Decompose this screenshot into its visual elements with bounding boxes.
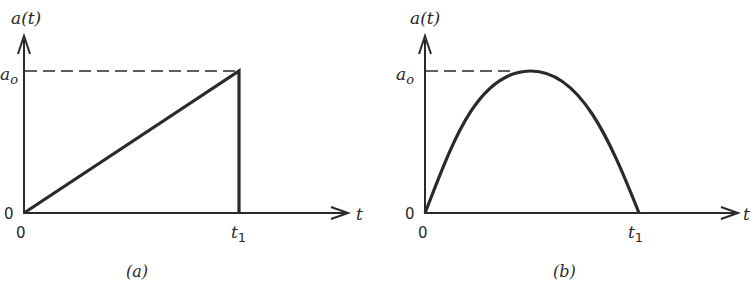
figure-a: a(t) ao 0 0 t1 t (a): [0, 8, 363, 281]
arch-curve: [425, 71, 639, 213]
origin-x-label: 0: [418, 224, 428, 242]
origin-y-label: 0: [405, 205, 415, 223]
diagram-canvas: a(t) ao 0 0 t1 t (a) a(t) ao 0 0 t1 t (b…: [0, 0, 752, 296]
y-axis-label: a(t): [410, 8, 440, 28]
x-axis-label: t: [743, 204, 750, 224]
y-tick-a0: ao: [0, 64, 18, 87]
origin-x-label: 0: [16, 224, 26, 242]
caption-b: (b): [553, 262, 576, 281]
y-tick-a0: ao: [396, 64, 414, 87]
y-axis-label: a(t): [11, 8, 41, 28]
figure-b: a(t) ao 0 0 t1 t (b): [396, 8, 750, 281]
x-axis-label: t: [356, 204, 363, 224]
x-tick-t1: t1: [231, 222, 246, 245]
ramp-curve: [24, 71, 239, 213]
caption-a: (a): [126, 262, 148, 281]
x-tick-t1: t1: [628, 222, 643, 245]
origin-y-label: 0: [4, 205, 14, 223]
